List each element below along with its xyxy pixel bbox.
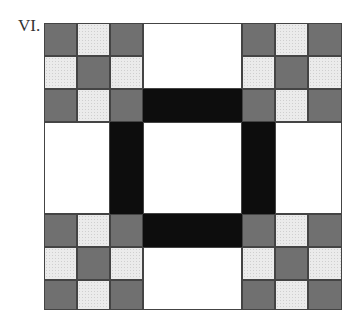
patch-dark <box>242 23 275 56</box>
patch-dark <box>77 247 110 280</box>
patch-light <box>275 23 308 56</box>
patch-dark <box>308 89 342 122</box>
patch-dark <box>110 280 143 310</box>
center-square <box>143 122 242 214</box>
frame-left-bar <box>110 122 143 214</box>
patch-dark <box>77 56 110 89</box>
right-center-panel <box>275 122 342 214</box>
bottom-center-panel <box>143 247 242 310</box>
frame-right-bar <box>242 122 275 214</box>
patch-dark <box>308 23 342 56</box>
patch-light <box>77 214 110 247</box>
patch-dark <box>242 280 275 310</box>
patch-dark <box>110 89 143 122</box>
patch-light <box>275 89 308 122</box>
frame-top-bar <box>143 89 242 122</box>
patch-dark <box>110 23 143 56</box>
patch-dark <box>308 214 342 247</box>
patch-light <box>308 56 342 89</box>
figure-label: VI. <box>18 16 40 36</box>
patch-dark <box>308 280 342 310</box>
frame-bottom-bar <box>143 214 242 247</box>
left-center-panel <box>44 122 110 214</box>
patch-light <box>110 247 143 280</box>
patch-dark <box>275 56 308 89</box>
patch-light <box>44 247 77 280</box>
patch-dark <box>242 89 275 122</box>
patch-dark <box>44 280 77 310</box>
patch-dark <box>44 89 77 122</box>
patch-light <box>242 56 275 89</box>
patch-dark <box>44 23 77 56</box>
patch-dark <box>110 214 143 247</box>
patch-light <box>77 89 110 122</box>
patch-light <box>275 214 308 247</box>
patch-light <box>77 280 110 310</box>
patch-dark <box>275 247 308 280</box>
top-center-panel <box>143 23 242 89</box>
patch-dark <box>242 214 275 247</box>
patch-light <box>44 56 77 89</box>
patch-light <box>308 247 342 280</box>
patch-dark <box>44 214 77 247</box>
patch-light <box>275 280 308 310</box>
patch-light <box>110 56 143 89</box>
patch-light <box>77 23 110 56</box>
patch-light <box>242 247 275 280</box>
